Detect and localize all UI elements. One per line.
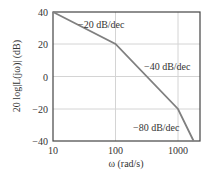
x-tick-100: 100 [108,145,123,156]
x-axis-label: ω (rad/s) [108,158,143,170]
x-tick-1000: 1000 [168,145,188,156]
x-axis-ticks: 10 100 1000 [48,145,188,156]
y-axis-ticks: 40 20 0 −20 −40 [32,7,48,147]
y-tick-20: 20 [38,39,48,50]
y-tick-neg40: −40 [32,136,48,147]
y-tick-40: 40 [38,7,48,18]
annotation-slope-2: −40 dB/dec [144,61,191,72]
y-tick-neg20: −20 [32,104,48,115]
bode-magnitude-chart: −20 dB/dec −40 dB/dec −80 dB/dec 40 20 0… [0,0,212,180]
x-tick-10: 10 [48,145,58,156]
annotation-slope-3: −80 dB/dec [133,122,180,133]
annotation-slope-1: −20 dB/dec [78,19,125,30]
y-axis-label: 20 log|L(jω)| (dB) [11,40,23,112]
y-tick-0: 0 [43,72,48,83]
